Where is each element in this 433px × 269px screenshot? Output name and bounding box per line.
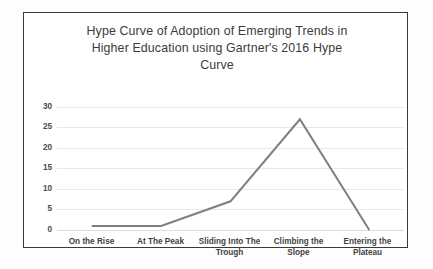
y-axis-tick-5: 5 [30, 204, 52, 213]
y-axis-tick-20: 20 [30, 143, 52, 152]
x-axis-label-climbing-the-slope: Climbing the Slope [264, 237, 333, 258]
x-axis-label-line: Slope [264, 248, 333, 259]
x-axis-label-line: On the Rise [57, 237, 126, 248]
x-axis-label-line: Trough [195, 248, 264, 259]
x-axis-label-on-the-rise: On the Rise [57, 237, 126, 248]
y-axis-tick-25: 25 [30, 122, 52, 131]
y-axis-tick-0: 0 [30, 225, 52, 234]
y-axis-tick-15: 15 [30, 163, 52, 172]
x-axis-label-line: Sliding Into The [195, 237, 264, 248]
x-axis-label-at-the-peak: At The Peak [126, 237, 195, 248]
x-axis-label-entering-the-plateau: Entering the Plateau [333, 237, 402, 258]
x-axis-label-sliding-into-the-trough: Sliding Into The Trough [195, 237, 264, 258]
x-axis-label-line: Plateau [333, 248, 402, 259]
series-line [57, 13, 404, 249]
y-axis-tick-30: 30 [30, 102, 52, 111]
x-axis-label-line: Climbing the [264, 237, 333, 248]
plot-area: 30 25 20 15 10 5 0 On the Rise At The Pe… [24, 13, 407, 247]
x-axis-label-line: Entering the [333, 237, 402, 248]
x-axis-label-line: At The Peak [126, 237, 195, 248]
chart-container: Hype Curve of Adoption of Emerging Trend… [23, 12, 408, 248]
y-axis-tick-10: 10 [30, 184, 52, 193]
